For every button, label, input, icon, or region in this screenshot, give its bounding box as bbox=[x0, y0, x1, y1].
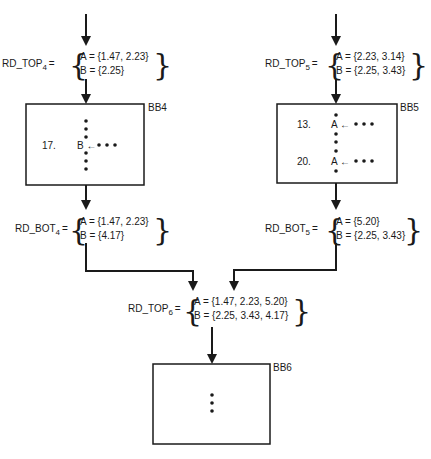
arrow-out-of-bb4 bbox=[81, 185, 91, 210]
rd-top6-name: RD_TOP6= bbox=[128, 303, 181, 317]
rd-bot5-set: RD_BOT5= { A = {5.20} B = {2.25, 3.43} } bbox=[265, 212, 423, 247]
rd-top4-name: RD_TOP4= bbox=[2, 58, 55, 72]
arrow-out-of-bb5 bbox=[331, 183, 341, 210]
basic-block-bb5: BB5 13. A ← 20. A ← bbox=[277, 102, 419, 183]
bb4-stmt-number: 17. bbox=[42, 140, 56, 151]
rd-top5-name: RD_TOP5= bbox=[265, 58, 318, 72]
right-brace-icon: } bbox=[153, 212, 172, 247]
rd-top4-b: B = {2.25} bbox=[80, 65, 125, 76]
rd-top4-set: RD_TOP4= { A = {1.47, 2.23} B = {2.25} } bbox=[2, 47, 172, 82]
rd-bot5-name: RD_BOT5= bbox=[265, 223, 318, 237]
rd-bot4-b: B = {4.17} bbox=[80, 230, 125, 241]
rd-top5-set: RD_TOP5= { A = {2.23, 3.14} B = {2.25, 3… bbox=[265, 47, 428, 82]
horizontal-ellipsis-icon bbox=[97, 143, 117, 147]
rd-bot5-a: A = {5.20} bbox=[336, 216, 380, 227]
rd-bot4-set: RD_BOT4= { A = {1.47, 2.23} B = {4.17} } bbox=[15, 212, 172, 247]
vertical-ellipsis-icon bbox=[210, 393, 214, 413]
basic-block-bb6: BB6 bbox=[153, 362, 292, 444]
connector-bb4-to-rd-top6 bbox=[86, 243, 198, 291]
rd-top5-b: B = {2.25, 3.43} bbox=[336, 65, 406, 76]
rd-top6-set: RD_TOP6= { A = {1.47, 2.23, 5.20} B = {2… bbox=[128, 293, 311, 328]
bb4-label: BB4 bbox=[148, 102, 167, 113]
bb4-stmt-assign: B ← bbox=[77, 140, 96, 151]
horizontal-ellipsis-icon bbox=[354, 122, 374, 126]
bb5-stmt1-number: 13. bbox=[297, 119, 311, 130]
basic-block-bb4: BB4 17. B ← bbox=[26, 102, 167, 185]
arrow-into-bb5 bbox=[331, 79, 341, 104]
rd-top6-a: A = {1.47, 2.23, 5.20} bbox=[194, 296, 288, 307]
bb5-stmt2-number: 20. bbox=[297, 156, 311, 167]
bb6-label: BB6 bbox=[273, 362, 292, 373]
connector-bb5-to-rd-top6 bbox=[229, 243, 336, 291]
rd-top4-a: A = {1.47, 2.23} bbox=[80, 51, 149, 62]
rd-bot5-b: B = {2.25, 3.43} bbox=[336, 230, 406, 241]
bb5-label: BB5 bbox=[400, 102, 419, 113]
bb5-stmt2-assign: A ← bbox=[331, 156, 350, 167]
arrow-into-rd-top4 bbox=[81, 14, 91, 46]
right-brace-icon: } bbox=[153, 47, 172, 82]
rd-bot4-name: RD_BOT4= bbox=[15, 223, 68, 237]
right-brace-icon: } bbox=[292, 293, 311, 328]
rd-bot4-a: A = {1.47, 2.23} bbox=[80, 216, 149, 227]
horizontal-ellipsis-icon bbox=[354, 159, 374, 163]
arrow-into-bb4 bbox=[81, 79, 91, 104]
reaching-definitions-diagram: RD_TOP4= { A = {1.47, 2.23} B = {2.25} }… bbox=[0, 0, 431, 459]
rd-top5-a: A = {2.23, 3.14} bbox=[336, 51, 405, 62]
arrow-into-bb6 bbox=[207, 327, 217, 364]
right-brace-icon: } bbox=[404, 212, 423, 247]
bb5-stmt1-assign: A ← bbox=[331, 119, 350, 130]
arrow-into-rd-top5 bbox=[331, 14, 341, 46]
rd-top6-b: B = {2.25, 3.43, 4.17} bbox=[194, 310, 289, 321]
right-brace-icon: } bbox=[409, 47, 428, 82]
